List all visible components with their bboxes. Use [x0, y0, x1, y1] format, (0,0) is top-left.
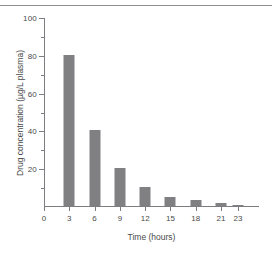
- y-tick-label-80: 80: [28, 51, 37, 60]
- y-axis-title-text: Drug concentration (µg/L plasma): [15, 49, 25, 175]
- x-tick-21: [221, 207, 222, 211]
- x-tick-3: [69, 207, 70, 211]
- x-tick-12: [145, 207, 146, 211]
- y-tick-minor-30: [41, 150, 44, 151]
- y-tick-80: [39, 56, 44, 57]
- x-tick-9: [120, 207, 121, 211]
- x-tick-label-0: 0: [42, 214, 46, 223]
- bar-23h: [232, 205, 243, 207]
- y-tick-40: [39, 131, 44, 132]
- x-tick-label-12: 12: [141, 214, 150, 223]
- y-tick-100: [39, 18, 44, 19]
- y-tick-label-40: 40: [28, 127, 37, 136]
- y-tick-20: [39, 169, 44, 170]
- x-tick-label-23: 23: [233, 214, 242, 223]
- x-tick-6: [95, 207, 96, 211]
- y-tick-minor-70: [41, 75, 44, 76]
- plot-area: 100 80 60 40 20 0 3 6 9 12 15 18 21: [44, 18, 259, 207]
- x-axis-title: Time (hours): [44, 232, 259, 242]
- x-tick-23: [238, 207, 239, 211]
- bar-3h: [64, 55, 75, 206]
- x-tick-18: [196, 207, 197, 211]
- bar-9h: [114, 168, 125, 206]
- bar-21h: [216, 203, 227, 206]
- y-tick-minor-50: [41, 113, 44, 114]
- y-tick-minor-90: [41, 37, 44, 38]
- y-tick-label-20: 20: [28, 165, 37, 174]
- y-tick-60: [39, 94, 44, 95]
- bar-18h: [190, 200, 201, 206]
- x-tick-label-18: 18: [191, 214, 200, 223]
- x-tick-label-3: 3: [67, 214, 71, 223]
- bar-12h: [140, 187, 151, 206]
- x-axis-line: [44, 206, 259, 207]
- x-tick-0: [44, 207, 45, 211]
- y-tick-label-100: 100: [23, 14, 37, 23]
- x-tick-label-21: 21: [217, 214, 226, 223]
- x-tick-label-9: 9: [118, 214, 122, 223]
- y-axis-line: [44, 18, 45, 207]
- x-tick-label-6: 6: [92, 214, 96, 223]
- top-divider-rule: [0, 5, 272, 6]
- bar-6h: [89, 130, 100, 206]
- x-tick-label-15: 15: [166, 214, 175, 223]
- x-tick-15: [170, 207, 171, 211]
- y-axis-title: Drug concentration (µg/L plasma): [14, 18, 25, 207]
- y-tick-minor-10: [41, 188, 44, 189]
- bar-15h: [165, 197, 176, 206]
- y-tick-label-60: 60: [28, 89, 37, 98]
- drug-concentration-bar-chart: 100 80 60 40 20 0 3 6 9 12 15 18 21: [0, 0, 272, 260]
